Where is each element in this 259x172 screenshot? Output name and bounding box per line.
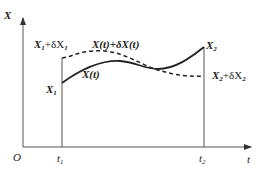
x-axis-label: t xyxy=(247,153,251,165)
t1-label: t1 xyxy=(57,152,64,166)
t2-label: t2 xyxy=(199,152,206,166)
end-varied-label: X2+δX2 xyxy=(211,69,246,83)
start-nominal-label: X1 xyxy=(45,83,57,97)
y-axis-label: X xyxy=(3,9,12,21)
end-nominal-label: X2 xyxy=(205,39,217,53)
origin-label: O xyxy=(13,151,21,163)
varied-curve-label: X(t)+δX(t) xyxy=(91,38,139,51)
start-varied-label: X1+δX1 xyxy=(33,38,68,52)
nominal-curve-label: X(t) xyxy=(81,68,100,81)
variation-diagram: X t O t1 t2 X1+δX1 X(t)+δX(t) X(t) X1 X2… xyxy=(0,0,259,172)
